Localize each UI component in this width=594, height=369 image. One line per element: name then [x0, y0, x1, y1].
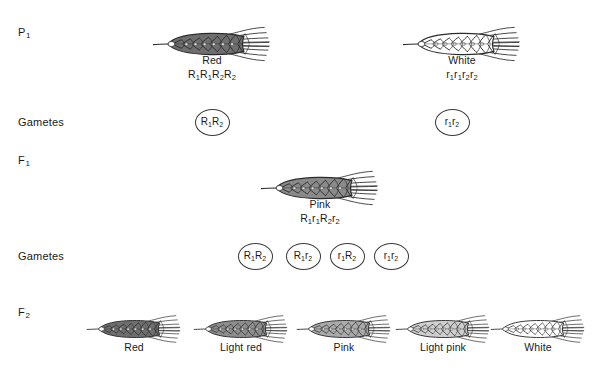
f1-genotype-label: R1r1R2r2	[300, 212, 340, 226]
f1-phenotype-label: Pink	[310, 198, 331, 210]
row-label-p1-text: P	[18, 26, 26, 38]
row-label-f2: F2	[18, 306, 30, 320]
p1-parent-2-genotype-label: r1r1r2r2	[446, 68, 478, 82]
row-label-f1-text: F	[18, 154, 25, 166]
f1-gamete-2-genotype-text: R1r2	[294, 250, 312, 262]
f2-offspring-5-phenotype-label: White	[524, 341, 551, 353]
row-label-f1: F1	[18, 154, 30, 168]
row-label-f1-sub: 1	[25, 159, 30, 168]
f1-gamete-4: r1r2	[374, 243, 409, 270]
row-label-p1: P1	[18, 26, 31, 40]
p1-parent-2-phenotype-label: White	[448, 54, 475, 66]
row-label-p1-sub: 1	[26, 31, 31, 40]
f1-gamete-4-genotype-text: r1r2	[384, 250, 399, 262]
f1-gamete-1-genotype-text: R1R2	[244, 250, 266, 262]
parent-gamete-2: r1r2	[435, 109, 470, 136]
p1-parent-1-genotype-label: R1R1R2R2	[188, 68, 236, 82]
parent-gamete-1: R1R2	[195, 109, 230, 136]
parent-gamete-2-genotype-text: r1r2	[445, 116, 460, 128]
f2-offspring-2-phenotype-label: Light red	[220, 341, 262, 353]
wheat-inheritance-diagram: P1 Gametes F1 Gametes F2 RedR1R1R2R2Whit…	[0, 0, 594, 369]
row-label-f2-text: F	[18, 306, 25, 318]
p1-parent-1-phenotype-label: Red	[202, 54, 222, 66]
f1-gamete-3: r1R2	[330, 243, 365, 270]
parent-gamete-1-genotype-text: R1R2	[201, 116, 223, 128]
f2-offspring-4-phenotype-label: Light pink	[420, 341, 466, 353]
f2-offspring-1-phenotype-label: Red	[124, 341, 144, 353]
row-label-gametes-f1: Gametes	[18, 250, 64, 262]
f1-gamete-2: R1r2	[286, 243, 321, 270]
f1-gamete-1: R1R2	[238, 243, 273, 270]
row-label-gametes-f1-text: Gametes	[18, 250, 64, 262]
row-label-gametes-p: Gametes	[18, 116, 64, 128]
row-label-f2-sub: 2	[25, 311, 30, 320]
f2-offspring-3-phenotype-label: Pink	[334, 341, 355, 353]
f1-gamete-3-genotype-text: r1R2	[338, 250, 356, 262]
row-label-gametes-p-text: Gametes	[18, 116, 64, 128]
